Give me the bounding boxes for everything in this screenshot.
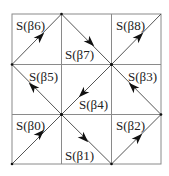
- label-beta3: S(β3): [128, 69, 157, 84]
- vertex-dot: [11, 63, 14, 66]
- vertex-dot: [160, 113, 163, 116]
- vertex-dot: [110, 63, 113, 66]
- vertex-dot: [110, 163, 113, 166]
- beta-path-diagram: S(β6) S(β7) S(β8) S(β5) S(β4) S(β3) S(β0…: [0, 0, 169, 176]
- label-beta8: S(β8): [116, 18, 145, 33]
- label-beta6: S(β6): [16, 18, 45, 33]
- vertex-dot: [11, 163, 14, 166]
- vertex-dot: [60, 13, 63, 16]
- label-beta1: S(β1): [65, 148, 94, 163]
- label-beta4: S(β4): [79, 97, 108, 112]
- label-beta0: S(β0): [16, 118, 45, 133]
- label-beta2: S(β2): [116, 118, 145, 133]
- arrow-down-right-icon: [78, 132, 91, 145]
- label-beta5: S(β5): [29, 69, 58, 84]
- label-beta7: S(β7): [65, 47, 94, 62]
- vertex-dot: [60, 113, 63, 116]
